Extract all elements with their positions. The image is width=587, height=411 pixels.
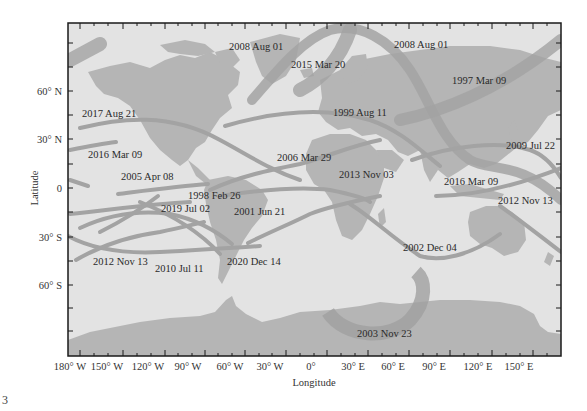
label-2008-aug-01-a: 2008 Aug 01 [229,41,283,52]
x-tick-label: 120° E [464,361,493,372]
label-2012-nov-13-b: 2012 Nov 13 [93,256,148,267]
label-2012-nov-13-a: 2012 Nov 13 [498,195,553,206]
eclipse-map-figure: 2008 Aug 01 2008 Aug 01 2015 Mar 20 1997… [0,0,587,411]
x-tick-label: 30° W [256,361,283,372]
x-tick-labels: 180° W 150° W 120° W 90° W 60° W 30° W 0… [54,361,534,372]
x-tick-label: 0° [306,361,315,372]
label-2015-mar-20: 2015 Mar 20 [291,59,345,70]
label-1997-mar-09: 1997 Mar 09 [452,75,506,86]
x-axis-title: Longitude [292,377,335,388]
label-2019-jul-02: 2019 Jul 02 [161,203,210,214]
y-tick-label: 60° N [37,86,62,97]
x-tick-label: 180° W [54,361,86,372]
label-2016-mar-09-b: 2016 Mar 09 [444,176,498,187]
y-tick-labels: 60° N 30° N 0 30° S 60° S [37,86,62,291]
label-2001-jun-21: 2001 Jun 21 [234,206,285,217]
label-1998-feb-26: 1998 Feb 26 [188,190,241,201]
label-2020-dec-14: 2020 Dec 14 [227,256,281,267]
x-tick-label: 90° W [174,361,201,372]
label-2016-mar-09-a: 2016 Mar 09 [88,149,142,160]
x-tick-label: 150° W [91,361,123,372]
y-tick-label: 0 [57,183,62,194]
x-tick-label: 90° E [422,361,446,372]
label-2009-jul-22: 2009 Jul 22 [506,140,555,151]
label-2010-jul-11: 2010 Jul 11 [155,263,204,274]
label-2005-apr-08: 2005 Apr 08 [121,171,174,182]
label-2003-nov-23: 2003 Nov 23 [357,328,412,339]
y-axis-title: Latitude [29,170,40,205]
y-tick-label: 30° S [39,232,62,243]
x-tick-label: 30° E [341,361,365,372]
label-2017-aug-21: 2017 Aug 21 [82,108,136,119]
x-tick-label: 60° E [381,361,405,372]
label-2006-mar-29: 2006 Mar 29 [277,152,331,163]
label-1999-aug-11: 1999 Aug 11 [333,107,387,118]
x-tick-label: 120° W [132,361,164,372]
label-2002-dec-04: 2002 Dec 04 [403,242,457,253]
y-tick-label: 30° N [37,134,62,145]
label-2008-aug-01-b: 2008 Aug 01 [394,39,448,50]
label-2013-nov-03: 2013 Nov 03 [339,169,394,180]
x-tick-label: 60° W [216,361,243,372]
x-tick-label: 150° E [505,361,534,372]
y-tick-label: 60° S [39,280,62,291]
figure-number-mark: 3 [2,393,8,408]
